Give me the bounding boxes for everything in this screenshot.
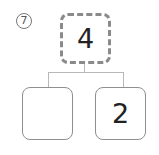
problem-number-text: 7 <box>21 14 28 27</box>
part-right-value: 2 <box>112 98 129 129</box>
connector-bar <box>48 72 124 73</box>
whole-box: 4 <box>60 13 111 64</box>
problem-number: 7 <box>16 13 32 29</box>
part-box-left[interactable] <box>22 87 73 140</box>
connector-left-drop <box>48 72 49 87</box>
part-box-right: 2 <box>95 87 146 140</box>
whole-value: 4 <box>77 23 94 54</box>
connector-right-drop <box>123 72 124 87</box>
